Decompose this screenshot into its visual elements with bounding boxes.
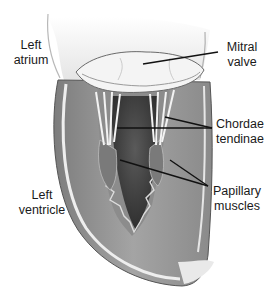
label-mitral-valve: Mitral valve [220, 40, 264, 70]
label-chordae-tendinae: Chordae tendinae [212, 117, 268, 147]
label-line: Papillary [209, 184, 265, 199]
label-line: muscles [209, 199, 265, 214]
label-line: Left [14, 188, 70, 203]
label-left-atrium: Left atrium [8, 38, 54, 68]
label-line: Chordae [212, 117, 268, 132]
label-line: tendinae [212, 132, 268, 147]
label-line: ventricle [14, 203, 70, 218]
label-line: Mitral [220, 40, 264, 55]
label-line: Left [8, 38, 54, 53]
label-left-ventricle: Left ventricle [14, 188, 70, 218]
label-line: valve [220, 55, 264, 70]
heart-diagram: Left atrium Mitral valve Chordae tendina… [0, 0, 274, 294]
label-papillary-muscles: Papillary muscles [209, 184, 265, 214]
label-line: atrium [8, 53, 54, 68]
